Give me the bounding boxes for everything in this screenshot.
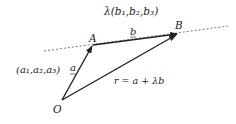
- vector-r-arrow: [62, 35, 176, 100]
- a-vector-label: a: [70, 62, 76, 73]
- point-o-label: O: [53, 103, 62, 115]
- b-vector-label: b: [130, 26, 136, 37]
- a-coords-label: (a₁,a₂,a₃): [16, 64, 60, 75]
- point-b-label: B: [174, 19, 183, 31]
- point-a-label: A: [88, 32, 97, 44]
- direction-label: λ(b₁,b₂,b₃): [103, 5, 158, 17]
- vector-diagram: λ(b₁,b₂,b₃) b A B (a₁,a₂,a₃) a r = a + λ…: [0, 0, 236, 124]
- equation-label: r = a + λb: [114, 75, 164, 86]
